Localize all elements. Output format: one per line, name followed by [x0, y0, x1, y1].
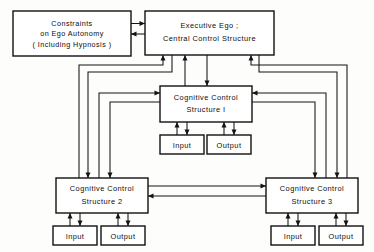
- arrowhead-output1-to-ccs1: [222, 122, 227, 128]
- output-box-ccs3[interactable]: Output: [319, 226, 363, 245]
- output1-label: Output: [217, 141, 242, 150]
- arrowhead-input3-to-ccs3: [286, 213, 291, 219]
- arrowhead-ccs3-to-ccs2: [148, 194, 154, 199]
- constraints-line-1: Constraints: [51, 19, 92, 28]
- arrowhead-ccs1-to-input1: [185, 130, 190, 136]
- arrowhead-output2-to-ccs2: [116, 213, 121, 219]
- constraints-line-3: ( Including Hypnosis ): [32, 40, 111, 49]
- arrowhead-constraints-to-executive: [140, 21, 146, 26]
- diagram-canvas: Constraints on Ego Autonomy ( Including …: [0, 0, 374, 252]
- connector-ccs2-to-ccs1: [99, 93, 160, 178]
- arrowhead-ccs3-to-ccs1: [252, 91, 258, 96]
- arrowhead-ccs3-to-output3: [344, 221, 349, 227]
- ccs3-line-2: Structure 3: [291, 197, 332, 206]
- executive-ego-box[interactable]: Executive Ego ; Central Control Structur…: [145, 11, 274, 55]
- ccs3-line-1: Cognitive Control: [280, 184, 344, 193]
- ccs1-line-1: Cognitive Control: [174, 93, 238, 102]
- output-box-ccs1[interactable]: Output: [207, 135, 251, 154]
- arrowhead-ccs1-to-output1: [232, 130, 237, 136]
- output3-label: Output: [329, 232, 354, 241]
- executive-ego-line-2: Central Control Structure: [163, 34, 256, 43]
- arrowhead-ccs3-to-input3: [296, 221, 301, 227]
- cognitive-control-structure-1-box[interactable]: Cognitive Control Structure I: [160, 86, 252, 122]
- arrowhead-ccs2-to-executive: [161, 55, 166, 61]
- executive-ego-line-1: Executive Ego ;: [180, 21, 238, 30]
- connector-ccs1-to-ccs3: [252, 102, 315, 178]
- arrowhead-ccs2-to-output2: [126, 221, 131, 227]
- ccs1-box-frame: [160, 86, 252, 122]
- connector-ccs1-to-ccs2: [110, 102, 160, 178]
- input3-label: Input: [284, 232, 303, 241]
- input-box-ccs3[interactable]: Input: [271, 226, 315, 245]
- diagram-svg: Constraints on Ego Autonomy ( Including …: [0, 0, 374, 252]
- arrowhead-input2-to-ccs2: [68, 213, 73, 219]
- input1-label: Input: [173, 141, 192, 150]
- arrowhead-ccs2-to-ccs1: [155, 91, 161, 96]
- input-box-ccs2[interactable]: Input: [53, 226, 97, 245]
- arrowhead-executive-to-ccs2: [86, 173, 91, 179]
- constraints-box[interactable]: Constraints on Ego Autonomy ( Including …: [13, 11, 131, 56]
- ccs2-line-1: Cognitive Control: [70, 184, 134, 193]
- input2-label: Input: [66, 232, 85, 241]
- input-box-ccs1[interactable]: Input: [160, 135, 204, 154]
- output-box-ccs2[interactable]: Output: [101, 226, 145, 245]
- arrowhead-ccs2-to-input2: [78, 221, 83, 227]
- connector-ccs3-to-executive: [251, 55, 347, 178]
- ccs1-line-2: Structure I: [186, 105, 225, 114]
- constraints-line-2: on Ego Autonomy: [40, 29, 104, 38]
- connector-ccs2-to-executive: [79, 55, 163, 178]
- arrowhead-executive-to-constraints: [131, 32, 137, 37]
- arrowhead-ccs1-to-ccs3: [313, 173, 318, 179]
- executive-ego-box-frame: [145, 11, 274, 55]
- connector-executive-to-ccs3: [259, 55, 337, 178]
- arrowhead-ccs2-to-ccs3: [261, 184, 267, 189]
- arrowhead-ccs3-to-executive: [249, 55, 254, 61]
- output2-label: Output: [111, 232, 136, 241]
- arrowhead-ccs1-to-ccs2: [108, 173, 113, 179]
- cognitive-control-structure-3-box[interactable]: Cognitive Control Structure 3: [266, 178, 358, 213]
- arrowhead-ccs1-to-executive: [183, 55, 188, 61]
- arrowhead-executive-to-ccs1: [205, 81, 210, 87]
- arrowhead-input1-to-ccs1: [175, 122, 180, 128]
- cognitive-control-structure-2-box[interactable]: Cognitive Control Structure 2: [56, 178, 148, 213]
- arrowhead-executive-to-ccs3: [335, 173, 340, 179]
- ccs2-line-2: Structure 2: [81, 197, 122, 206]
- arrowhead-output3-to-ccs3: [334, 213, 339, 219]
